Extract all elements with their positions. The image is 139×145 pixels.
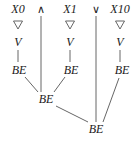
edge-join-to-lower <box>56 106 88 122</box>
edge-be-mid-join <box>54 77 65 92</box>
be-middle-top: BE <box>64 64 79 76</box>
variable-label-x1: X1 <box>63 3 76 15</box>
be-left: BE <box>12 64 27 76</box>
nabla-x1-icon <box>66 21 75 29</box>
be-join-lower: BE <box>89 123 104 135</box>
variable-label-x0: X0 <box>11 3 24 15</box>
or-operator-symbol: ∨ <box>92 4 100 15</box>
nabla-x0-icon <box>14 21 23 29</box>
be-right: BE <box>115 64 130 76</box>
v-node-0: V <box>14 36 21 48</box>
edge-be-right-lower <box>103 78 119 122</box>
v-node-2: V <box>116 36 123 48</box>
v-node-1: V <box>66 36 73 48</box>
and-operator-symbol: ∧ <box>37 4 45 15</box>
be-join-upper: BE <box>39 93 54 105</box>
variable-label-x10: X10 <box>110 3 129 15</box>
derivation-tree-diagram: X0∧X1∨X10VVVBEBEBEBEBE <box>0 0 139 145</box>
edge-be-left-join <box>25 77 38 92</box>
nabla-x10-icon <box>116 21 125 29</box>
